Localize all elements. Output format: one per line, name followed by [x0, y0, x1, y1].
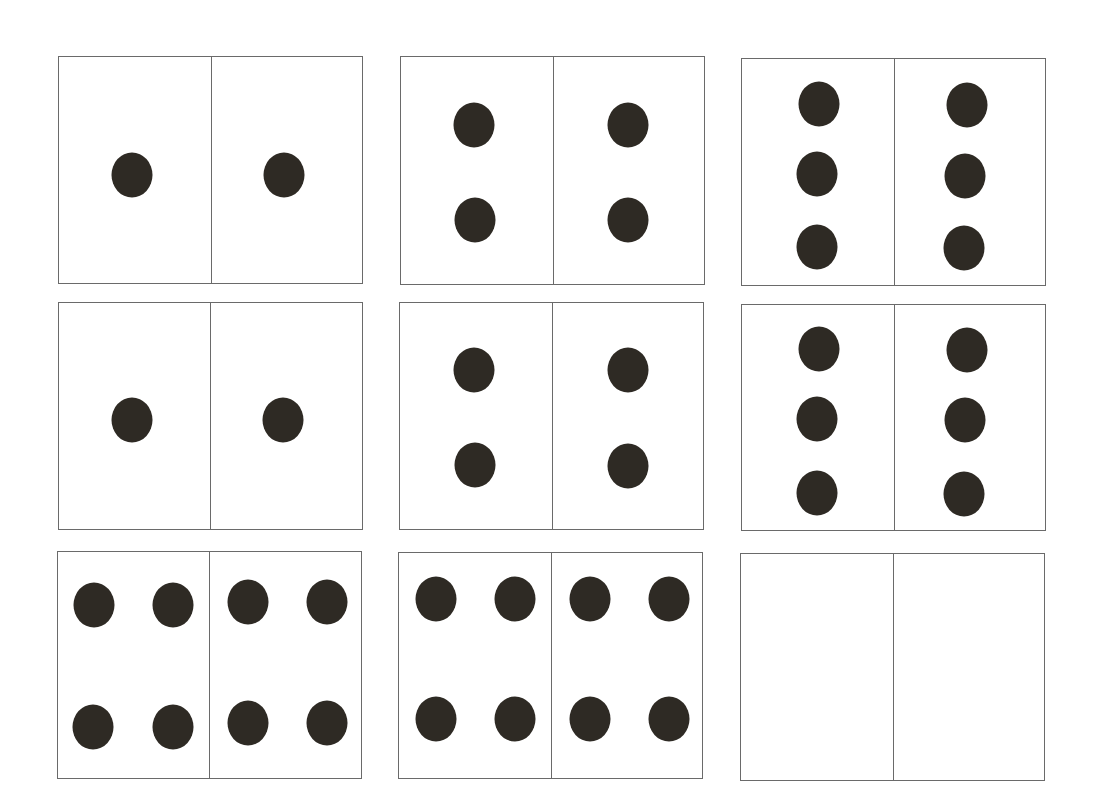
pip-dot	[153, 705, 194, 750]
pip-dot	[945, 398, 986, 443]
pip-dot	[112, 153, 153, 198]
pip-dot	[454, 348, 495, 393]
pip-dot	[455, 198, 496, 243]
domino-card-4-4	[57, 551, 362, 779]
domino-card-4-4b	[398, 552, 703, 779]
card-divider	[209, 552, 210, 778]
pip-dot	[945, 154, 986, 199]
domino-card-2-2	[400, 56, 705, 285]
card-divider	[552, 303, 553, 529]
pip-dot	[416, 697, 457, 742]
pip-dot	[307, 580, 348, 625]
pip-dot	[649, 697, 690, 742]
pip-dot	[73, 705, 114, 750]
pip-dot	[608, 103, 649, 148]
pip-dot	[799, 327, 840, 372]
pip-dot	[307, 701, 348, 746]
pip-dot	[947, 83, 988, 128]
card-divider	[893, 554, 894, 780]
pip-dot	[495, 577, 536, 622]
domino-card-3-3b	[741, 304, 1046, 531]
pip-dot	[228, 701, 269, 746]
pip-dot	[944, 472, 985, 517]
pip-dot	[797, 471, 838, 516]
card-divider	[553, 57, 554, 284]
pip-dot	[416, 577, 457, 622]
card-divider	[894, 59, 895, 285]
pip-dot	[495, 697, 536, 742]
pip-dot	[263, 398, 304, 443]
pip-dot	[570, 577, 611, 622]
pip-dot	[799, 82, 840, 127]
pip-dot	[797, 397, 838, 442]
pip-dot	[264, 153, 305, 198]
card-divider	[210, 303, 211, 529]
pip-dot	[228, 580, 269, 625]
pip-dot	[649, 577, 690, 622]
domino-card-blank	[740, 553, 1045, 781]
pip-dot	[608, 198, 649, 243]
card-divider	[894, 305, 895, 530]
domino-card-2-2b	[399, 302, 704, 530]
pip-dot	[455, 443, 496, 488]
pip-dot	[570, 697, 611, 742]
pip-dot	[74, 583, 115, 628]
pip-dot	[454, 103, 495, 148]
domino-card-1-1b	[58, 302, 363, 530]
pip-dot	[112, 398, 153, 443]
pip-dot	[153, 583, 194, 628]
pip-dot	[608, 444, 649, 489]
pip-dot	[608, 348, 649, 393]
pip-dot	[944, 226, 985, 271]
card-divider	[551, 553, 552, 778]
pip-dot	[797, 225, 838, 270]
domino-card-3-3	[741, 58, 1046, 286]
pip-dot	[797, 152, 838, 197]
card-divider	[211, 57, 212, 283]
pip-dot	[947, 328, 988, 373]
domino-card-1-1	[58, 56, 363, 284]
